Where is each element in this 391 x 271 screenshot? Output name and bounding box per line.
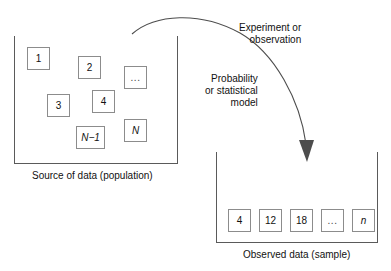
sample-unit-4: n bbox=[352, 209, 375, 232]
experiment-label-line-0: Experiment or bbox=[239, 22, 301, 34]
sample-unit-3: ... bbox=[321, 209, 344, 232]
probability-or-statistical-model-label: Probabilityor statisticalmodel bbox=[205, 73, 258, 109]
sample-unit-2: 18 bbox=[290, 209, 313, 232]
population-unit-1: 2 bbox=[78, 56, 101, 79]
population-unit-6: N bbox=[124, 119, 147, 142]
model-label-line-0: Probability bbox=[205, 73, 258, 85]
model-label-line-2: model bbox=[205, 97, 258, 109]
diagram-canvas: 12...34N−1N Source of data (population) … bbox=[0, 0, 391, 271]
model-label-line-1: or statistical bbox=[205, 85, 258, 97]
experiment-or-observation-label: Experiment orobservation bbox=[239, 22, 301, 46]
sample-unit-0: 4 bbox=[228, 209, 251, 232]
population-unit-0: 1 bbox=[27, 47, 50, 70]
experiment-label-line-1: observation bbox=[239, 34, 301, 46]
sample-unit-1: 12 bbox=[259, 209, 282, 232]
population-unit-4: 4 bbox=[92, 90, 115, 113]
sample-caption: Observed data (sample) bbox=[243, 249, 350, 260]
population-unit-2: ... bbox=[124, 66, 147, 89]
population-unit-3: 3 bbox=[47, 94, 70, 117]
population-caption: Source of data (population) bbox=[32, 170, 153, 181]
population-unit-5: N−1 bbox=[76, 126, 105, 149]
